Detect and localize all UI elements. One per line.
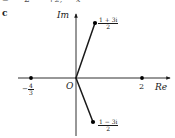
origin-label: O — [66, 82, 73, 91]
tick-label-negative-four-thirds: −43 — [22, 81, 34, 97]
label-lower-complex-root: 1 − 3i2 — [98, 117, 118, 133]
point-marker-upper-root — [93, 21, 97, 25]
fraction-denominator: 3 — [28, 90, 34, 96]
fraction-one-minus-three-i-over-two: 1 − 3i2 — [98, 119, 118, 133]
point-marker-lower-root — [91, 120, 95, 124]
segment-origin-to-upper-root — [76, 23, 95, 78]
point-marker-real-two — [140, 76, 144, 80]
imaginary-axis-label: Im — [57, 11, 69, 20]
fraction-four-thirds: 43 — [28, 83, 34, 97]
tick-label-two: 2 — [139, 83, 144, 91]
segment-origin-to-lower-root — [76, 78, 93, 122]
argand-diagram-figure: = 2 +2, x c Im Re O 2 −43 1 — [0, 0, 175, 138]
point-marker-real-negative — [29, 76, 33, 80]
fraction-denominator: 2 — [98, 126, 118, 132]
fraction-one-plus-three-i-over-two: 1 + 3i2 — [98, 17, 118, 31]
real-axis-label: Re — [155, 83, 167, 92]
label-upper-complex-root: 1 + 3i2 — [98, 15, 118, 31]
complex-plane-plot — [0, 0, 175, 138]
fraction-denominator: 2 — [98, 24, 118, 30]
